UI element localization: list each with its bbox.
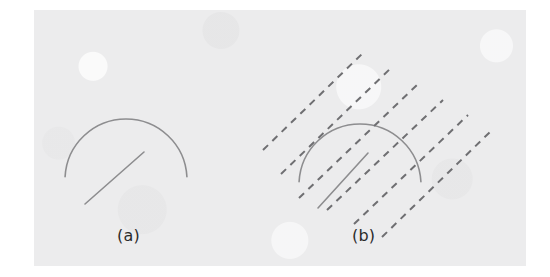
figure-root: (a) (b)	[0, 0, 550, 277]
dashed-line-1	[263, 52, 364, 150]
panel-b-dashed-overlay	[263, 52, 492, 237]
dashed-line-6	[382, 130, 492, 237]
dashed-line-2	[281, 67, 392, 174]
panel-b-line-segment	[318, 153, 368, 208]
panel-b-label: (b)	[352, 226, 375, 245]
panel-a-line-segment	[85, 152, 144, 204]
panel-a-label: (a)	[117, 226, 140, 245]
panel-b-shapes	[299, 124, 421, 208]
panel-b-arc	[299, 124, 421, 182]
panel-a-shapes	[65, 119, 187, 204]
figure-drawing-canvas	[0, 0, 550, 277]
